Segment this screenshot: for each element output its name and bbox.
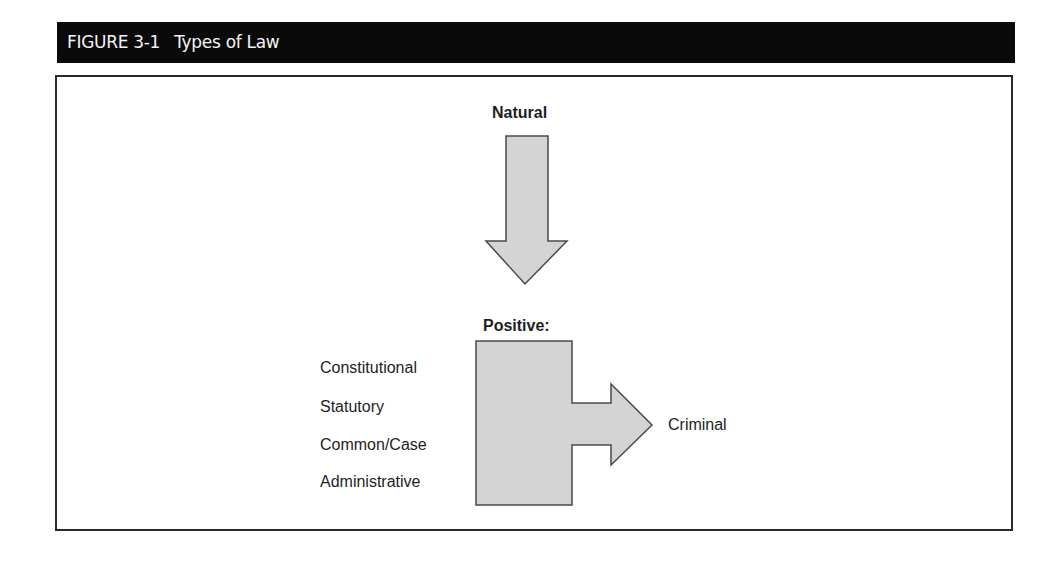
right-arrow-icon [476, 341, 652, 505]
positive-type-statutory: Statutory [320, 398, 384, 416]
positive-type-administrative: Administrative [320, 473, 420, 491]
down-arrow-icon [486, 136, 567, 284]
criminal-label: Criminal [668, 416, 727, 434]
positive-label: Positive: [483, 317, 550, 335]
positive-type-constitutional: Constitutional [320, 359, 417, 377]
diagram-canvas [0, 0, 1057, 562]
natural-label: Natural [492, 104, 547, 122]
positive-type-common-case: Common/Case [320, 436, 427, 454]
